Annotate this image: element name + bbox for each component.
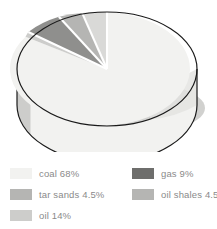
legend-label-tar-sands: tar sands 4.5%	[39, 189, 104, 200]
pie-chart-svg	[0, 0, 217, 152]
legend-swatch-oil	[10, 210, 32, 221]
legend-label-gas: gas 9%	[161, 168, 194, 179]
legend-label-coal: coal 68%	[39, 168, 79, 179]
legend-swatch-oil-shales	[132, 189, 154, 200]
pie-chart-canvas	[0, 0, 217, 152]
legend-item-coal[interactable]: coal 68%	[10, 163, 128, 183]
legend-item-gas[interactable]: gas 9%	[132, 163, 217, 183]
legend-column-right: gas 9% oil shales 4.5%	[132, 163, 217, 205]
legend-label-oil-shales: oil shales 4.5%	[161, 189, 217, 200]
chart-legend: coal 68% tar sands 4.5% oil 14% gas 9% o…	[10, 163, 217, 225]
legend-item-oil-shales[interactable]: oil shales 4.5%	[132, 184, 217, 204]
legend-item-oil[interactable]: oil 14%	[10, 205, 128, 225]
legend-swatch-gas	[132, 168, 154, 179]
legend-label-oil: oil 14%	[39, 210, 71, 221]
legend-item-tar-sands[interactable]: tar sands 4.5%	[10, 184, 128, 204]
pie-chart-figure: coal 68% tar sands 4.5% oil 14% gas 9% o…	[0, 0, 217, 229]
legend-swatch-tar-sands	[10, 189, 32, 200]
legend-swatch-coal	[10, 168, 32, 179]
legend-column-left: coal 68% tar sands 4.5% oil 14%	[10, 163, 128, 226]
